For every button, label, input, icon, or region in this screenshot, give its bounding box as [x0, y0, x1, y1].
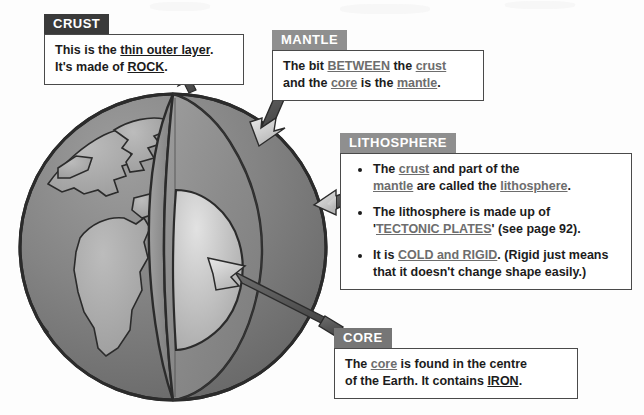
text-run: It's made of [55, 60, 127, 74]
text-run-underlined: COLD and RIGID [398, 248, 497, 262]
crust-callout-body: This is the thin outer layer. It's made … [44, 34, 244, 85]
core-callout: CORE The core is found in the centre of … [334, 328, 578, 399]
text-run: This is the [55, 43, 120, 57]
text-run-underlined: mantle [397, 76, 437, 90]
text-run: of the Earth. It contains [345, 374, 487, 388]
text-run: The lithosphere is made up of [373, 205, 550, 219]
mantle-callout-body: The bit BETWEEN the crust and the core i… [272, 50, 484, 101]
lithosphere-bullet-3: It is COLD and RIGID. (Rigid just means … [351, 247, 621, 281]
text-run: The [345, 357, 371, 371]
scan-artifact [150, 2, 210, 11]
text-run-underlined: mantle [373, 179, 413, 193]
text-run: The [373, 162, 399, 176]
lithosphere-bullet-2: The lithosphere is made up of 'TECTONIC … [351, 204, 621, 238]
crust-callout: CRUST This is the thin outer layer. It's… [44, 14, 244, 85]
lithosphere-bullet-list: The crust and part of the mantle are cal… [351, 161, 621, 281]
text-run: The bit [283, 59, 327, 73]
text-run: are called the [413, 179, 500, 193]
mantle-line-2: and the core is the mantle. [283, 75, 473, 92]
text-run-underlined: core [371, 357, 397, 371]
core-callout-body: The core is found in the centre of the E… [334, 348, 578, 399]
earth-cutaway-diagram [18, 72, 338, 415]
text-run-underlined: lithosphere [500, 179, 567, 193]
text-run-underlined: crust [416, 59, 447, 73]
text-run: It is [373, 248, 398, 262]
text-run: is found in the centre [397, 357, 527, 371]
core-line-2: of the Earth. It contains IRON. [345, 373, 567, 390]
text-run: . [437, 76, 440, 90]
text-run: . [164, 60, 167, 74]
text-run: . [519, 374, 522, 388]
text-run-underlined: thin outer layer [120, 43, 210, 57]
crust-line-2: It's made of ROCK. [55, 59, 233, 76]
text-run: the [390, 59, 416, 73]
core-callout-header: CORE [334, 328, 392, 348]
text-run: ' (see page 92). [492, 222, 581, 236]
text-run: . [568, 179, 571, 193]
scan-artifact [340, 4, 430, 14]
text-run: and part of the [429, 162, 519, 176]
core-line-1: The core is found in the centre [345, 356, 567, 373]
text-run: and the [283, 76, 331, 90]
text-run: is the [357, 76, 397, 90]
text-run-underlined: ROCK [127, 60, 164, 74]
text-run: that it doesn't change shape easily.) [373, 265, 586, 279]
mantle-line-1: The bit BETWEEN the crust [283, 58, 473, 75]
text-run-underlined: crust [399, 162, 430, 176]
lithosphere-callout: LITHOSPHERE The crust and part of the ma… [340, 133, 632, 290]
text-run: . [210, 43, 213, 57]
crust-callout-header: CRUST [44, 14, 109, 34]
text-run-underlined: TECTONIC PLATES [376, 222, 492, 236]
lithosphere-callout-body: The crust and part of the mantle are cal… [340, 153, 632, 290]
lithosphere-bullet-1: The crust and part of the mantle are cal… [351, 161, 621, 195]
text-run-underlined: core [331, 76, 357, 90]
mantle-callout: MANTLE The bit BETWEEN the crust and the… [272, 30, 484, 101]
crust-line-1: This is the thin outer layer. [55, 42, 233, 59]
scan-artifact [505, 1, 575, 9]
lithosphere-callout-header: LITHOSPHERE [340, 133, 456, 153]
diagram-page: CRUST This is the thin outer layer. It's… [0, 0, 644, 415]
text-run-underlined: BETWEEN [327, 59, 390, 73]
text-run: . (Rigid just means [497, 248, 608, 262]
mantle-callout-header: MANTLE [272, 30, 347, 50]
text-run-underlined: IRON [487, 374, 518, 388]
